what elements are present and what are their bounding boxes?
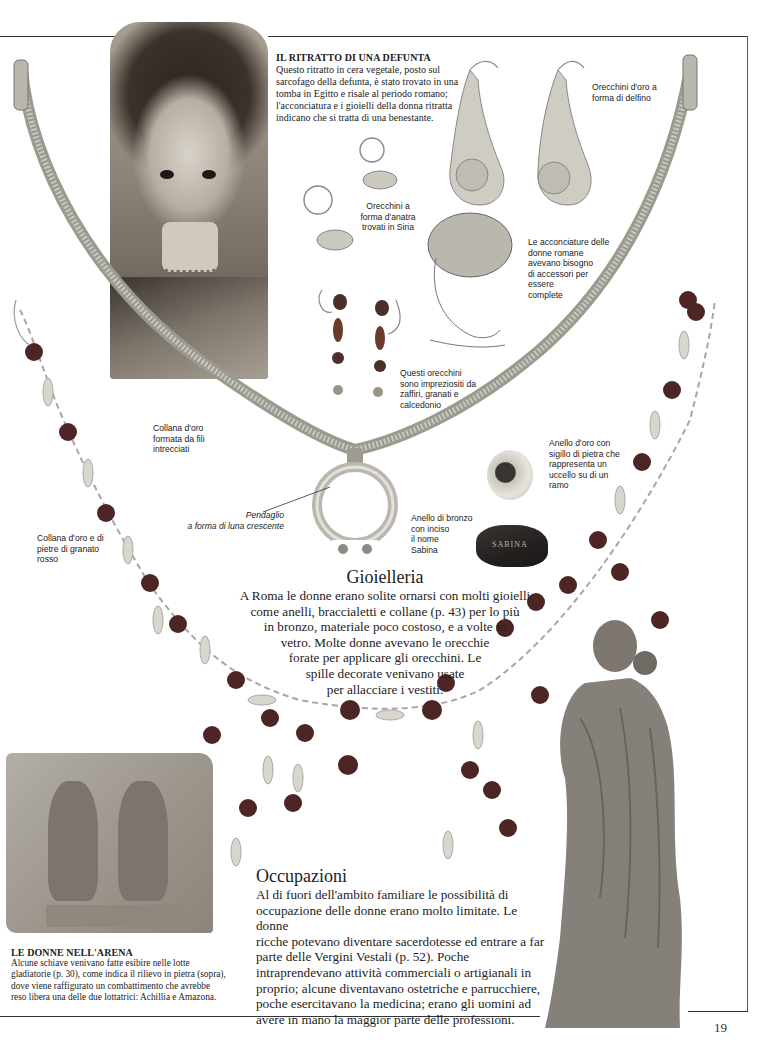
label-line: a forma di luna crescente — [178, 521, 284, 532]
label-line: calcedonio — [400, 400, 476, 411]
label-line: Anello di bronzo — [411, 513, 473, 524]
label-gold-necklace: Collana d'oro formata da fili intrecciat… — [153, 423, 205, 455]
body-line: proprio; alcune diventavano ostetriche e… — [256, 981, 546, 997]
label-line: Orecchini d'oro a — [592, 82, 657, 93]
body-line: occupazione delle donne erano molto limi… — [256, 903, 546, 934]
label-line: rosso — [37, 554, 104, 565]
label-line: Anello d'oro con — [549, 438, 620, 449]
label-line: forma di delfino — [592, 93, 657, 104]
caption-line: indicano che si tratta di una benestante… — [276, 112, 476, 124]
body-line: Al di fuori dell'ambito familiare le pos… — [256, 887, 546, 903]
caption-line: gladiatorie (p. 30), come indica il rili… — [11, 969, 236, 980]
relief-figure-amazona — [118, 781, 168, 901]
label-line: essere — [528, 279, 609, 290]
arena-caption-title: LE DONNE NELL'ARENA — [11, 947, 236, 958]
label-bronze-ring: Anello di bronzo con inciso il nome Sabi… — [411, 513, 473, 555]
label-line: Pendaglio — [178, 510, 284, 521]
label-line: pietre di granato — [37, 544, 104, 555]
page-number: 19 — [714, 1020, 727, 1036]
label-dolphin-earrings: Orecchini d'oro a forma di delfino — [592, 82, 657, 103]
caption-line: l'acconciatura e i gioielli della donna … — [276, 100, 476, 112]
body-line: vetro. Molte donne avevano le orecchie — [195, 635, 575, 651]
label-line: complete — [528, 290, 609, 301]
jewelry-body: A Roma le donne erano solite ornarsi con… — [195, 588, 575, 697]
jewelry-heading: Gioielleria — [195, 567, 575, 588]
label-line: di accessori per — [528, 269, 609, 280]
gladiatrix-relief-image — [6, 753, 213, 933]
relief-inscription-base — [46, 905, 186, 927]
label-line: rappresenta un — [549, 459, 620, 470]
caption-line: tomba in Egitto e risale al periodo roma… — [276, 88, 476, 100]
label-hairstyles: Le acconciature delle donne romane aveva… — [528, 237, 609, 300]
label-line: Questi orecchini — [400, 368, 476, 379]
body-line: ricche potevano diventare sacerdotesse e… — [256, 934, 546, 950]
label-line: intrecciati — [153, 444, 205, 455]
body-line: parte delle Vergini Vestali (p. 52). Poc… — [256, 949, 546, 965]
label-gem-earrings: Questi orecchini sono impreziositi da za… — [400, 368, 476, 410]
body-line: come anelli, braccialetti e collane (p. … — [195, 604, 575, 620]
body-line: A Roma le donne erano solite ornarsi con… — [195, 588, 575, 604]
body-line: per allacciare i vestiti. — [195, 682, 575, 698]
occupations-heading: Occupazioni — [256, 866, 546, 887]
label-line: Le acconciature delle — [528, 237, 609, 248]
portrait-caption-title: IL RITRATTO DI UNA DEFUNTA — [276, 52, 476, 64]
ring-engraving: SABINA — [492, 540, 528, 549]
label-line: con inciso — [411, 524, 473, 535]
caption-line: reso libera una delle due lottatrici: Ac… — [11, 992, 236, 1003]
hairstyle-sketch — [428, 213, 512, 347]
label-line: Orecchini a — [356, 201, 420, 212]
caption-line: sarcofago della defunta, è stato trovato… — [276, 76, 476, 88]
label-line: avevano bisogno — [528, 258, 609, 269]
occupations-body: Al di fuori dell'ambito familiare le pos… — [256, 887, 546, 1027]
relief-figure-achillia — [48, 781, 98, 901]
label-duck-earrings: Orecchini a forma d'anatra trovati in Si… — [356, 201, 420, 233]
label-gold-ring: Anello d'oro con sigillo di pietra che r… — [549, 438, 620, 491]
label-line: sono impreziositi da — [400, 379, 476, 390]
label-line: il nome — [411, 534, 473, 545]
crescent-pendant — [263, 448, 393, 556]
label-line: donne romane — [528, 248, 609, 259]
caption-line: dove viene raffigurato un combattimento … — [11, 981, 236, 992]
label-line: Sabina — [411, 545, 473, 556]
body-line: spille decorate venivano usate — [195, 666, 575, 682]
gem-earrings — [319, 290, 400, 397]
jewelry-section: Gioielleria A Roma le donne erano solite… — [195, 567, 575, 697]
label-line: uccello su di un — [549, 470, 620, 481]
label-line: zaffiri, granati e — [400, 389, 476, 400]
body-line: forate per applicare gli orecchini. Le — [195, 650, 575, 666]
caption-line: Alcune schiave venivano fatte esibire ne… — [11, 958, 236, 969]
gold-seal-ring-image — [487, 450, 533, 500]
label-line: formata da fili — [153, 434, 205, 445]
label-garnet-necklace: Collana d'oro e di pietre di granato ros… — [37, 533, 104, 565]
occupations-section: Occupazioni Al di fuori dell'ambito fami… — [256, 866, 546, 1027]
label-crescent-pendant: Pendaglio a forma di luna crescente — [178, 510, 284, 531]
body-line: poche esercitavano la medicina; erano gl… — [256, 996, 546, 1012]
body-line: in bronzo, materiale poco costoso, e a v… — [195, 619, 575, 635]
arena-caption: LE DONNE NELL'ARENA Alcune schiave veniv… — [11, 947, 236, 1003]
label-line: sigillo di pietra che — [549, 449, 620, 460]
label-line: trovati in Siria — [356, 222, 420, 233]
portrait-caption: IL RITRATTO DI UNA DEFUNTA Questo ritrat… — [276, 52, 476, 124]
caption-line: Questo ritratto in cera vegetale, posto … — [276, 64, 476, 76]
label-line: ramo — [549, 480, 620, 491]
label-line: Collana d'oro — [153, 423, 205, 434]
bronze-sabina-ring-image: SABINA — [476, 525, 548, 567]
duck-earrings — [304, 138, 397, 250]
body-line: intraprendevano attività commerciali o a… — [256, 965, 546, 981]
label-line: Collana d'oro e di — [37, 533, 104, 544]
body-line: avere in mano la maggior parte delle pro… — [256, 1012, 546, 1028]
label-line: forma d'anatra — [356, 212, 420, 223]
